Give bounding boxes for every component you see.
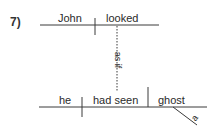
problem-number: 7)	[10, 16, 21, 28]
sub-object: ghost	[158, 94, 185, 106]
sub-verb: had seen	[93, 94, 138, 106]
connector-label: as if	[112, 52, 124, 69]
main-subject: John	[58, 12, 82, 24]
main-verb: looked	[106, 12, 138, 24]
sub-subject: he	[59, 94, 71, 106]
